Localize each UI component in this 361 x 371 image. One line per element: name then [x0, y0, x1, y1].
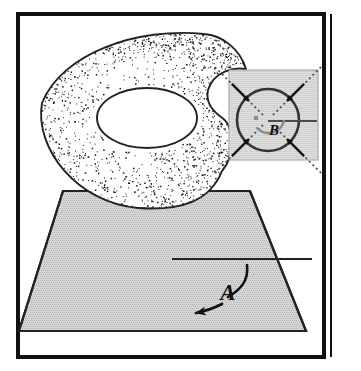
- detail-inset-box: B: [214, 66, 323, 175]
- inset-angle-origin-tick: [254, 116, 258, 120]
- label-a: A: [218, 280, 235, 305]
- technical-diagram: A B: [0, 0, 361, 371]
- torus-inner-hole: [97, 88, 197, 148]
- label-b: B: [268, 122, 279, 138]
- figure-root: A B: [0, 0, 361, 371]
